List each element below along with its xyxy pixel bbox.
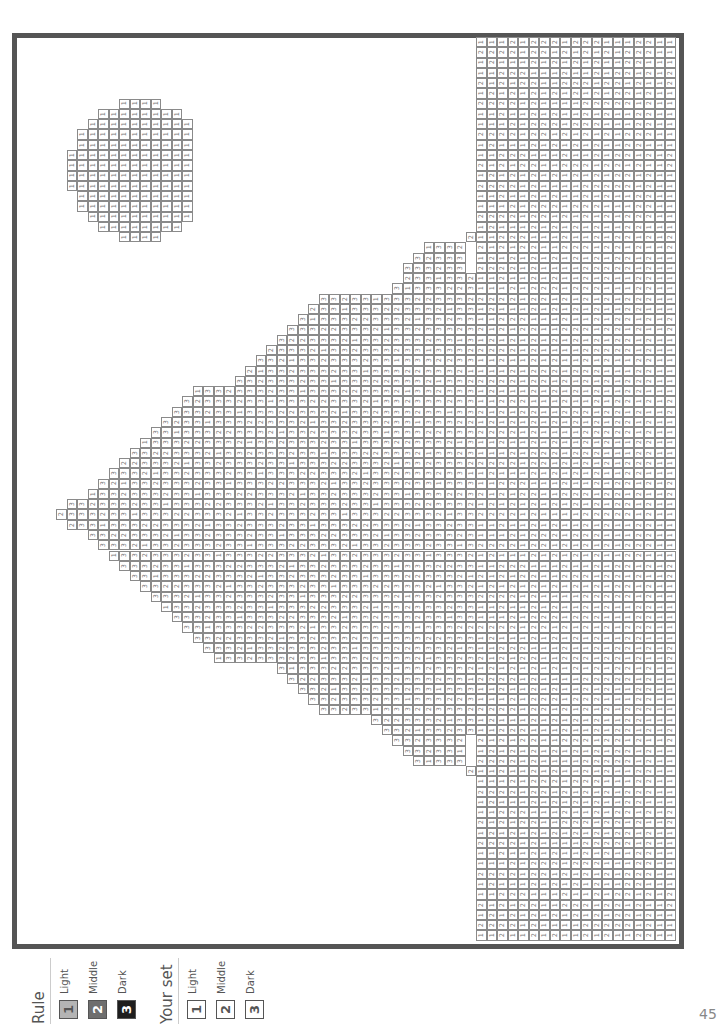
tree-cell[interactable]: 3 (403, 304, 414, 314)
tree-cell[interactable]: 3 (329, 304, 340, 314)
ground-cell[interactable]: 1 (655, 263, 666, 273)
tree-cell[interactable]: 2 (455, 325, 466, 335)
moon-cell[interactable]: 1 (182, 129, 193, 139)
ground-cell[interactable]: 1 (623, 273, 634, 283)
tree-cell[interactable]: 3 (298, 633, 309, 643)
ground-cell[interactable]: 1 (613, 776, 624, 786)
tree-cell[interactable]: 1 (287, 458, 298, 468)
ground-cell[interactable]: 1 (655, 355, 666, 365)
tree-cell[interactable]: 2 (172, 540, 183, 550)
ground-cell[interactable]: 1 (655, 386, 666, 396)
tree-cell[interactable]: 3 (256, 643, 267, 653)
ground-cell[interactable]: 1 (476, 910, 487, 920)
ground-cell[interactable]: 2 (539, 776, 550, 786)
tree-cell[interactable]: 3 (340, 561, 351, 571)
ground-cell[interactable]: 2 (644, 458, 655, 468)
tree-cell[interactable]: 3 (424, 366, 435, 376)
tree-cell[interactable]: 1 (424, 551, 435, 561)
ground-cell[interactable]: 1 (476, 879, 487, 889)
ground-cell[interactable]: 2 (644, 263, 655, 273)
ground-cell[interactable]: 1 (560, 181, 571, 191)
ground-cell[interactable]: 1 (634, 920, 645, 930)
tree-cell[interactable]: 3 (382, 674, 393, 684)
tree-cell[interactable]: 2 (424, 499, 435, 509)
tree-cell[interactable]: 3 (256, 355, 267, 365)
tree-cell[interactable]: 2 (119, 458, 130, 468)
ground-cell[interactable]: 1 (571, 263, 582, 273)
ground-cell[interactable]: 2 (550, 930, 561, 940)
ground-cell[interactable]: 1 (508, 766, 519, 776)
ground-cell[interactable]: 2 (634, 78, 645, 88)
tree-cell[interactable]: 2 (182, 468, 193, 478)
tree-cell[interactable]: 3 (413, 386, 424, 396)
ground-cell[interactable]: 2 (539, 705, 550, 715)
ground-cell[interactable]: 2 (476, 509, 487, 519)
ground-cell[interactable]: 1 (581, 468, 592, 478)
ground-cell[interactable]: 2 (508, 88, 519, 98)
ground-cell[interactable]: 2 (634, 766, 645, 776)
ground-cell[interactable]: 2 (550, 386, 561, 396)
ground-cell[interactable]: 2 (539, 366, 550, 376)
moon-cell[interactable]: 1 (109, 160, 120, 170)
ground-cell[interactable]: 1 (665, 366, 676, 376)
ground-cell[interactable]: 2 (665, 396, 676, 406)
ground-cell[interactable]: 1 (518, 633, 529, 643)
ground-cell[interactable]: 1 (581, 715, 592, 725)
tree-cell[interactable]: 3 (235, 376, 246, 386)
ground-cell[interactable]: 1 (655, 684, 666, 694)
tree-cell[interactable]: 1 (119, 479, 130, 489)
moon-cell[interactable]: 1 (109, 109, 120, 119)
moon-cell[interactable]: 1 (88, 201, 99, 211)
tree-cell[interactable]: 3 (403, 653, 414, 663)
ground-cell[interactable]: 2 (634, 520, 645, 530)
ground-cell[interactable]: 1 (539, 242, 550, 252)
ground-cell[interactable]: 1 (487, 530, 498, 540)
tree-cell[interactable]: 3 (466, 602, 477, 612)
tree-cell[interactable]: 3 (298, 438, 309, 448)
tree-cell[interactable]: 3 (403, 551, 414, 561)
tree-cell[interactable]: 3 (371, 643, 382, 653)
ground-cell[interactable]: 1 (539, 571, 550, 581)
tree-cell[interactable]: 3 (413, 355, 424, 365)
ground-cell[interactable]: 2 (592, 499, 603, 509)
tree-cell[interactable]: 3 (256, 633, 267, 643)
tree-cell[interactable]: 3 (329, 674, 340, 684)
tree-cell[interactable]: 3 (466, 396, 477, 406)
ground-cell[interactable]: 1 (634, 99, 645, 109)
ground-cell[interactable]: 2 (592, 366, 603, 376)
ground-cell[interactable]: 1 (518, 838, 529, 848)
tree-cell[interactable]: 3 (140, 448, 151, 458)
ground-cell[interactable]: 1 (560, 448, 571, 458)
tree-cell[interactable]: 3 (434, 417, 445, 427)
tree-cell[interactable]: 3 (424, 314, 435, 324)
ground-cell[interactable]: 1 (602, 807, 613, 817)
tree-cell[interactable]: 3 (172, 551, 183, 561)
ground-cell[interactable]: 1 (602, 879, 613, 889)
ground-cell[interactable]: 2 (644, 119, 655, 129)
ground-cell[interactable]: 2 (581, 78, 592, 88)
ground-cell[interactable]: 1 (487, 37, 498, 47)
ground-cell[interactable]: 1 (602, 725, 613, 735)
ground-cell[interactable]: 1 (476, 88, 487, 98)
tree-cell[interactable]: 3 (350, 602, 361, 612)
ground-cell[interactable]: 2 (602, 191, 613, 201)
tree-cell[interactable]: 3 (403, 622, 414, 632)
ground-cell[interactable]: 2 (613, 150, 624, 160)
ground-cell[interactable]: 1 (602, 314, 613, 324)
ground-cell[interactable]: 1 (665, 581, 676, 591)
ground-cell[interactable]: 1 (476, 643, 487, 653)
tree-cell[interactable]: 3 (287, 509, 298, 519)
tree-cell[interactable]: 2 (203, 499, 214, 509)
tree-cell[interactable]: 3 (424, 694, 435, 704)
tree-cell[interactable]: 2 (298, 540, 309, 550)
ground-cell[interactable]: 2 (497, 540, 508, 550)
ground-cell[interactable]: 1 (655, 869, 666, 879)
tree-cell[interactable]: 3 (287, 674, 298, 684)
tree-cell[interactable]: 3 (382, 684, 393, 694)
ground-cell[interactable]: 1 (655, 479, 666, 489)
ground-cell[interactable]: 1 (665, 335, 676, 345)
ground-cell[interactable]: 1 (550, 263, 561, 273)
ground-cell[interactable]: 2 (623, 499, 634, 509)
ground-cell[interactable]: 1 (550, 540, 561, 550)
ground-cell[interactable]: 2 (602, 756, 613, 766)
